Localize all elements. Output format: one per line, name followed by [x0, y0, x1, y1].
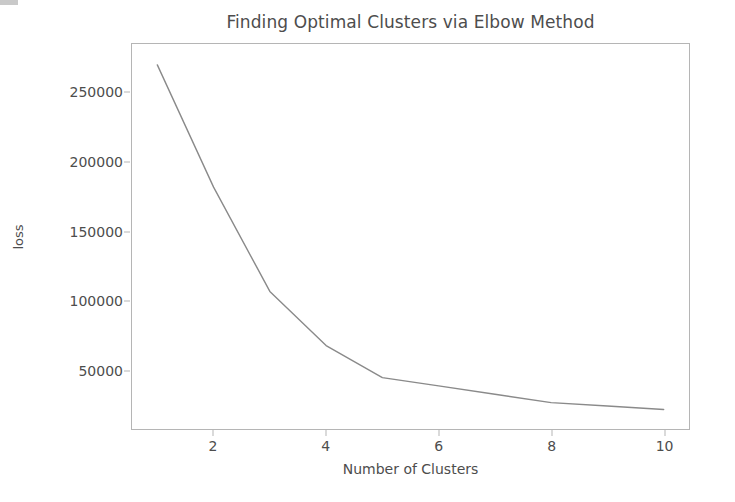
- x-tick-label: 10: [656, 438, 674, 454]
- x-tick-mark: [212, 430, 213, 436]
- y-tick-label: 250000: [70, 84, 123, 100]
- y-tick-label: 200000: [70, 154, 123, 170]
- x-tick-label: 8: [547, 438, 556, 454]
- y-axis-tick-labels: 50000100000150000200000250000: [0, 0, 123, 502]
- y-tick-mark: [124, 301, 130, 302]
- y-tick-mark: [124, 231, 130, 232]
- loss-line-series: [132, 44, 689, 429]
- y-tick-mark: [124, 161, 130, 162]
- figure-canvas: Finding Optimal Clusters via Elbow Metho…: [0, 0, 735, 502]
- x-tick-mark: [325, 430, 326, 436]
- y-tick-label: 50000: [78, 363, 123, 379]
- x-tick-mark: [551, 430, 552, 436]
- loss-polyline: [157, 65, 663, 410]
- x-tick-label: 6: [434, 438, 443, 454]
- x-axis-label: Number of Clusters: [131, 461, 690, 477]
- chart-title: Finding Optimal Clusters via Elbow Metho…: [131, 12, 690, 32]
- y-tick-label: 100000: [70, 293, 123, 309]
- x-tick-label: 4: [321, 438, 330, 454]
- y-tick-label: 150000: [70, 224, 123, 240]
- y-tick-mark: [124, 371, 130, 372]
- x-tick-mark: [664, 430, 665, 436]
- y-tick-mark: [124, 91, 130, 92]
- x-tick-mark: [438, 430, 439, 436]
- x-tick-label: 2: [208, 438, 217, 454]
- plot-area: [131, 43, 690, 430]
